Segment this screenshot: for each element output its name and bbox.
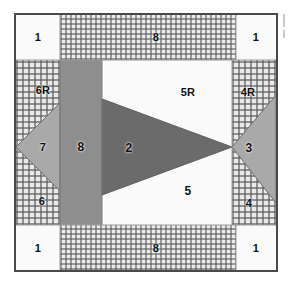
patch-sashing-bottom (60, 225, 236, 270)
patch-sashing-top (60, 15, 236, 60)
quilt-block-inner: 1 1 1 1 8 8 8 6R 6 7 4R 4 3 5R 5 2 (16, 15, 276, 270)
quilt-block-frame: 1 1 1 1 8 8 8 6R 6 7 4R 4 3 5R 5 2 (14, 13, 278, 272)
label-sashing-top: 8 (153, 32, 159, 43)
label-corner-bottom-right: 1 (253, 243, 259, 254)
label-sashing-bottom: 8 (153, 243, 159, 254)
label-left-upper: 6R (36, 85, 50, 96)
label-center-arrow: 2 (126, 142, 133, 154)
label-center-upper: 5R (181, 87, 195, 98)
label-right-lower: 4 (246, 198, 252, 209)
label-corner-bottom-left: 1 (35, 243, 41, 254)
label-center-lower: 5 (185, 185, 192, 197)
edge-tick-upper (283, 14, 285, 27)
label-left-lower: 6 (39, 196, 45, 207)
edge-tick-lower (283, 30, 285, 38)
label-right-triangle: 3 (246, 142, 253, 154)
label-sashing-bar: 8 (78, 141, 85, 153)
figure-canvas: 1 1 1 1 8 8 8 6R 6 7 4R 4 3 5R 5 2 (0, 0, 289, 289)
label-right-upper: 4R (241, 87, 255, 98)
label-corner-top-left: 1 (35, 32, 41, 43)
label-corner-top-right: 1 (253, 32, 259, 43)
label-left-triangle: 7 (40, 142, 46, 153)
